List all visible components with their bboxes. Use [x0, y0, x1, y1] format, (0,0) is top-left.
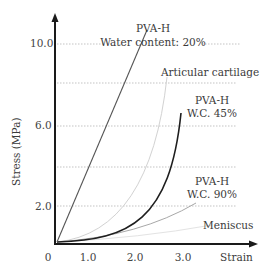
- x-axis-label: Strain: [220, 251, 253, 263]
- annotation-pva45-line1: PVA-H: [195, 94, 229, 106]
- y-tick-2: 2.0: [35, 200, 52, 212]
- x-axis-arrow-icon: [249, 241, 258, 248]
- annotation-pva90-line1: PVA-H: [195, 175, 229, 187]
- pva90-curve: [57, 203, 196, 242]
- annotation-cartilage: Articular cartilage: [161, 66, 259, 78]
- annotation-pva20-line1: PVA-H: [136, 22, 170, 34]
- pva45-curve: [57, 113, 181, 242]
- x-tick-2: 2.0: [127, 251, 144, 263]
- annotation-pva90-line2: W.C. 90%: [187, 188, 237, 200]
- y-tick-10: 10.0: [30, 37, 53, 49]
- annotation-pva20-line2: Water content: 20%: [100, 36, 206, 48]
- annotation-pva45-line2: W.C. 45%: [187, 107, 237, 119]
- x-tick-0: 0: [45, 251, 52, 263]
- x-tick-3: 3.0: [175, 251, 192, 263]
- x-tick-1: 1.0: [80, 251, 97, 263]
- annotation-meniscus: Meniscus: [203, 219, 254, 231]
- y-tick-6: 6.0: [35, 119, 52, 131]
- cartilage-curve: [57, 77, 167, 242]
- y-axis-arrow-icon: [52, 13, 59, 22]
- pva20-line: [57, 30, 147, 242]
- y-axis-label: Stress (MPa): [10, 117, 22, 186]
